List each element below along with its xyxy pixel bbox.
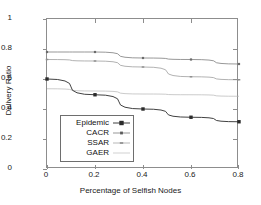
data-point-cacr-0 <box>46 51 48 53</box>
y-tick-mark-0 <box>43 169 47 170</box>
data-point-cacr-3 <box>190 58 192 60</box>
legend-item-gaer: GAER <box>64 148 130 158</box>
data-point-epidemic-0 <box>45 77 48 80</box>
legend-label-gaer: GAER <box>86 149 109 157</box>
data-point-cacr-4 <box>238 63 240 65</box>
y-tick-label-0: 0 <box>8 164 12 172</box>
y-tick-label-1: 1 <box>8 14 12 22</box>
legend-box: Epidemic CACR SSAR <box>60 115 134 162</box>
x-axis-title: Percentage of Selfish Nodes <box>0 186 261 195</box>
legend-item-ssar: SSAR <box>64 138 130 148</box>
legend-swatch-gaer <box>113 149 130 157</box>
legend-swatch-epidemic <box>113 119 130 127</box>
data-point-cacr-2 <box>142 57 144 59</box>
delivery-ratio-line-chart: 1 0.8 0.6 0.4 0.2 0 0 0.2 0.4 0.6 0.8 Pe… <box>0 0 261 205</box>
legend-swatch-cacr <box>113 129 130 137</box>
data-point-ssar-0 <box>46 59 49 61</box>
legend-item-cacr: CACR <box>64 128 130 138</box>
legend-swatch-ssar <box>113 139 130 147</box>
data-point-epidemic-4 <box>237 120 240 123</box>
legend-label-ssar: SSAR <box>87 139 109 147</box>
legend-label-epidemic: Epidemic <box>76 119 109 127</box>
x-tick-label-0: 0 <box>44 171 48 179</box>
data-point-ssar-3 <box>190 76 193 78</box>
data-point-epidemic-3 <box>189 116 192 119</box>
y-axis-title: Delivery Ratio <box>4 46 13 136</box>
x-tick-label-0-4: 0.4 <box>136 171 147 179</box>
legend-label-cacr: CACR <box>86 129 109 137</box>
x-tick-label-0-8: 0.8 <box>232 171 243 179</box>
data-point-epidemic-2 <box>141 107 144 110</box>
data-point-cacr-1 <box>94 51 96 53</box>
series-line-ssar <box>47 60 239 80</box>
data-point-ssar-1 <box>94 60 97 62</box>
x-tick-label-0-6: 0.6 <box>184 171 195 179</box>
legend-item-epidemic: Epidemic <box>64 118 130 128</box>
data-point-epidemic-1 <box>93 93 96 96</box>
data-point-ssar-2 <box>142 66 145 68</box>
data-point-ssar-4 <box>238 79 241 81</box>
x-tick-label-0-2: 0.2 <box>88 171 99 179</box>
